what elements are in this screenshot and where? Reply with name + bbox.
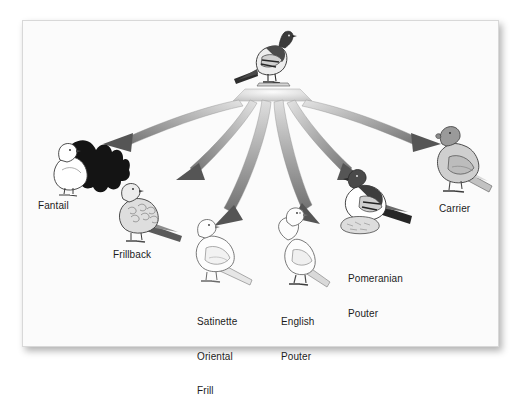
label-fantail: Fantail bbox=[38, 200, 69, 212]
label-english-pouter: English Pouter bbox=[281, 293, 315, 385]
label-english-pouter-line-1: English bbox=[281, 316, 315, 328]
label-satinette-line-2: Oriental bbox=[197, 351, 237, 363]
label-pomeranian-pouter-line-2: Pouter bbox=[348, 308, 403, 320]
breed-satinette-oriental-frill bbox=[196, 219, 252, 285]
label-satinette-oriental-frill: Satinette Oriental Frill bbox=[197, 293, 237, 398]
label-pomeranian-pouter: Pomeranian Pouter bbox=[348, 250, 403, 342]
breed-pomeranian-pouter bbox=[341, 170, 412, 234]
label-pomeranian-pouter-line-1: Pomeranian bbox=[348, 273, 403, 285]
breed-carrier bbox=[436, 127, 492, 192]
label-satinette-line-3: Frill bbox=[197, 385, 237, 397]
breed-fantail bbox=[54, 140, 130, 196]
label-carrier: Carrier bbox=[439, 203, 470, 215]
label-satinette-line-1: Satinette bbox=[197, 316, 237, 328]
breed-frillback bbox=[119, 183, 182, 242]
ancestor-rock-pigeon bbox=[234, 31, 297, 86]
label-frillback: Frillback bbox=[113, 249, 151, 261]
label-english-pouter-line-2: Pouter bbox=[281, 351, 315, 363]
